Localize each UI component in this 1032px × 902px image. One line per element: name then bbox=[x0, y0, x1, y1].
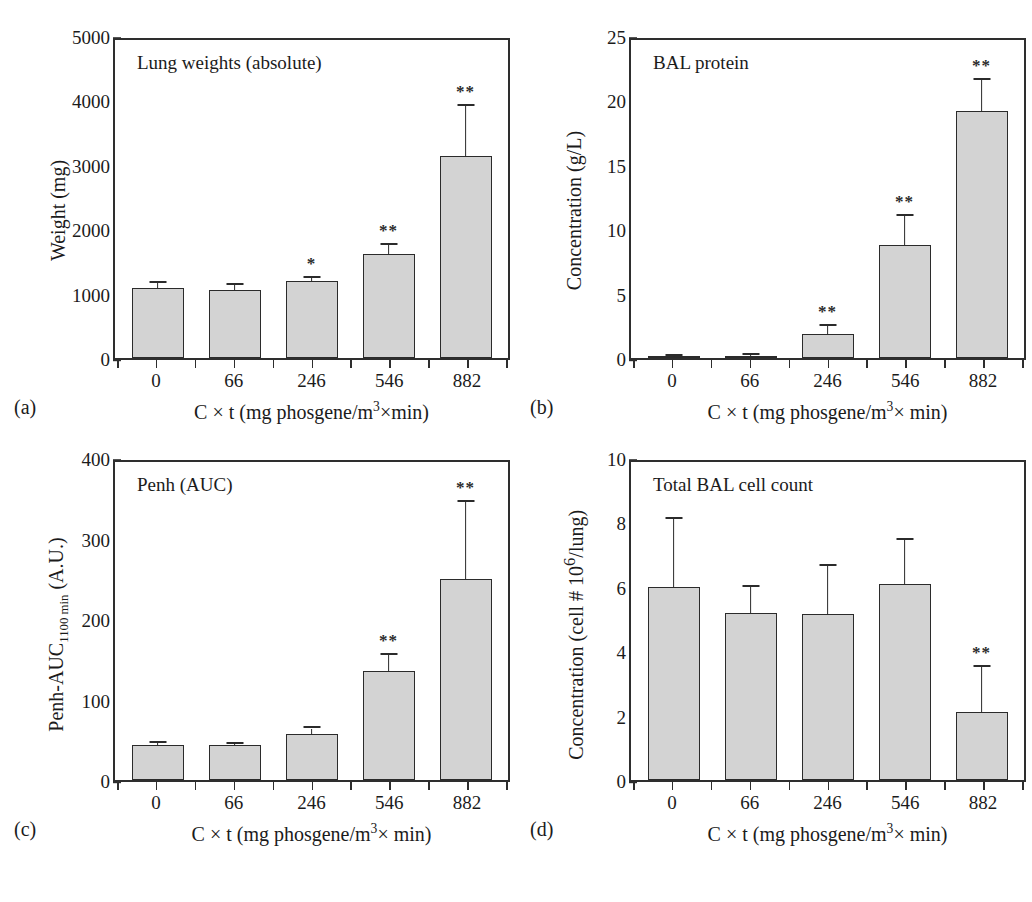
bar-group: ** bbox=[802, 40, 854, 358]
error-bar-cap bbox=[819, 564, 836, 566]
figure-four-panel-bar-charts: 010002000300040005000 Weight (mg) Lung w… bbox=[0, 0, 1032, 902]
error-bar-line bbox=[827, 566, 829, 615]
bar bbox=[132, 745, 184, 780]
x-tick-label: 0 bbox=[130, 782, 182, 816]
panel-c-y-axis-label-text: Penh-AUC bbox=[45, 643, 67, 732]
panel-b-bars: ****** bbox=[631, 40, 1024, 358]
error-bar-line bbox=[234, 744, 236, 747]
bar-group bbox=[286, 462, 338, 780]
panel-b: 0510152025 Concentration (g/L) BAL prote… bbox=[516, 18, 1032, 449]
error-bar-cap bbox=[226, 742, 243, 744]
y-tick-label: 200 bbox=[82, 610, 111, 632]
bar-group: ** bbox=[363, 40, 415, 358]
bar-group bbox=[648, 40, 700, 358]
error-bar-cap bbox=[896, 538, 913, 540]
panel-a-x-axis: 066246546882 bbox=[113, 360, 510, 394]
panel-c-plot-area: Penh (AUC) **** bbox=[113, 460, 510, 782]
panel-b-letter: (b) bbox=[530, 396, 553, 419]
y-tick-label: 5 bbox=[617, 285, 627, 307]
panel-d: 0246810 Concentration (cell # 106/lung) … bbox=[516, 440, 1032, 871]
panel-a-y-axis-label: Weight (mg) bbox=[47, 61, 70, 361]
panel-c-y-axis-label: Penh-AUC1100 min (A.U.) bbox=[45, 485, 72, 785]
panel-a-letter: (a) bbox=[14, 396, 36, 419]
error-bar-line bbox=[311, 278, 313, 282]
bar bbox=[363, 254, 415, 358]
error-bar-line bbox=[311, 729, 313, 736]
error-bar-line bbox=[234, 285, 236, 291]
bar-group bbox=[209, 462, 261, 780]
y-tick-label: 100 bbox=[82, 691, 111, 713]
panel-c-x-axis-label: C × t (mg phosgene/m3× min) bbox=[113, 821, 510, 846]
error-bar-cap bbox=[665, 354, 682, 356]
x-tick-label: 66 bbox=[208, 782, 260, 816]
y-tick-label: 20 bbox=[607, 91, 626, 113]
x-tick-label: 0 bbox=[130, 360, 182, 394]
x-tick-label: 246 bbox=[801, 360, 853, 394]
bar-group bbox=[209, 40, 261, 358]
bar bbox=[286, 281, 338, 358]
bar bbox=[879, 245, 931, 358]
panel-d-x-axis: 066246546882 bbox=[629, 782, 1026, 816]
x-tick-label: 246 bbox=[285, 360, 337, 394]
bar bbox=[132, 288, 184, 358]
significance-marker: * bbox=[307, 255, 317, 272]
y-tick-label: 0 bbox=[617, 349, 627, 371]
x-tick-label: 0 bbox=[646, 782, 698, 816]
bar bbox=[209, 290, 261, 358]
bar-group bbox=[725, 462, 777, 780]
x-tick-label: 546 bbox=[879, 360, 931, 394]
x-tick-label: 546 bbox=[879, 782, 931, 816]
y-tick-label: 1000 bbox=[72, 285, 110, 307]
panel-b-y-axis-label-text: Concentration (g/L) bbox=[563, 131, 585, 290]
panel-a-x-axis-label: C × t (mg phosgene/m3×min) bbox=[113, 399, 510, 424]
error-bar-cap bbox=[380, 243, 397, 245]
error-bar-line bbox=[465, 106, 467, 157]
error-bar-cap bbox=[973, 78, 990, 80]
y-tick-label: 0 bbox=[617, 771, 627, 793]
panel-d-y-axis-label-sup: 6 bbox=[560, 558, 579, 566]
significance-marker: ** bbox=[379, 632, 398, 649]
panel-d-y-axis-label: Concentration (cell # 106/lung) bbox=[560, 485, 588, 785]
bar-group bbox=[132, 462, 184, 780]
y-tick-label: 4000 bbox=[72, 91, 110, 113]
y-tick-label: 0 bbox=[101, 349, 111, 371]
error-bar-cap bbox=[226, 283, 243, 285]
bar-group bbox=[802, 462, 854, 780]
y-tick-label: 400 bbox=[82, 449, 111, 471]
error-bar-line bbox=[904, 540, 906, 584]
y-tick-label: 3000 bbox=[72, 156, 110, 178]
x-tick-label: 66 bbox=[724, 360, 776, 394]
x-tick-label: 882 bbox=[441, 782, 493, 816]
bar bbox=[879, 584, 931, 780]
bar bbox=[363, 671, 415, 780]
error-bar-cap bbox=[457, 104, 474, 106]
panel-b-x-axis: 066246546882 bbox=[629, 360, 1026, 394]
y-tick-label: 300 bbox=[82, 530, 111, 552]
panel-a-bars: ***** bbox=[115, 40, 508, 358]
error-bar-cap bbox=[303, 726, 320, 728]
error-bar-cap bbox=[303, 276, 320, 278]
bar-group: ** bbox=[440, 40, 492, 358]
x-tick-label: 246 bbox=[285, 782, 337, 816]
panel-d-y-axis-label-tail: /lung) bbox=[565, 510, 587, 558]
significance-marker: ** bbox=[972, 57, 991, 74]
x-tick-label: 66 bbox=[208, 360, 260, 394]
x-tick-label: 546 bbox=[363, 782, 415, 816]
significance-marker: ** bbox=[456, 83, 475, 100]
error-bar-line bbox=[981, 667, 983, 713]
error-bar-line bbox=[827, 326, 829, 335]
y-tick-label: 5000 bbox=[72, 27, 110, 49]
significance-marker: ** bbox=[895, 193, 914, 210]
y-tick-label: 2 bbox=[617, 707, 627, 729]
panel-a: 010002000300040005000 Weight (mg) Lung w… bbox=[0, 18, 516, 449]
bar bbox=[802, 334, 854, 358]
error-bar-cap bbox=[149, 741, 166, 743]
significance-marker: ** bbox=[379, 222, 398, 239]
error-bar-line bbox=[157, 743, 159, 746]
significance-marker: ** bbox=[972, 644, 991, 661]
error-bar-cap bbox=[457, 500, 474, 502]
error-bar-line bbox=[673, 356, 675, 357]
significance-marker: ** bbox=[818, 303, 837, 320]
significance-marker: ** bbox=[456, 479, 475, 496]
error-bar-line bbox=[673, 519, 675, 588]
